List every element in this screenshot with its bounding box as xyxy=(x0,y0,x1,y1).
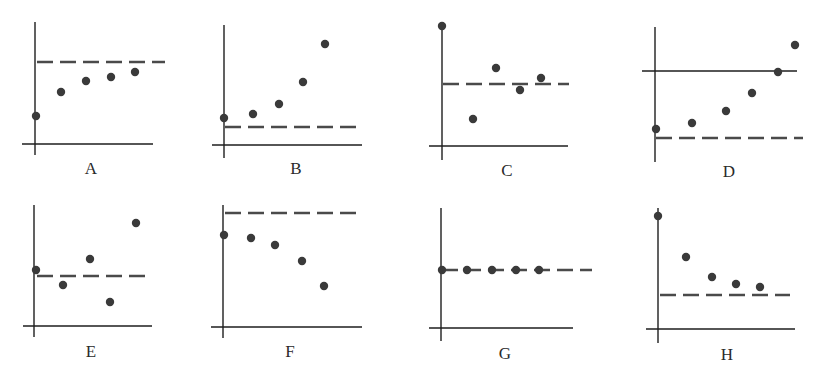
data-point xyxy=(516,86,524,94)
data-point xyxy=(32,112,40,120)
panel-label: G xyxy=(499,344,511,363)
data-point xyxy=(320,282,328,290)
data-point xyxy=(321,40,329,48)
data-point xyxy=(732,280,740,288)
data-point xyxy=(131,68,139,76)
data-point xyxy=(774,68,782,76)
data-point xyxy=(32,266,40,274)
panel-label: D xyxy=(723,162,735,181)
data-point xyxy=(652,125,660,133)
data-point xyxy=(132,219,140,227)
data-point xyxy=(512,266,520,274)
panel-c: C xyxy=(429,22,569,180)
data-point xyxy=(438,22,446,30)
panel-f: F xyxy=(211,205,362,361)
data-point xyxy=(488,266,496,274)
panel-b: B xyxy=(212,25,362,178)
data-point xyxy=(220,114,228,122)
panel-label: F xyxy=(285,342,294,361)
data-point xyxy=(299,78,307,86)
panel-label: C xyxy=(501,161,512,180)
data-point xyxy=(271,241,279,249)
data-point xyxy=(537,74,545,82)
figure-stage: ABCDEFGH xyxy=(0,0,824,385)
data-point xyxy=(722,107,730,115)
panel-label: H xyxy=(721,345,733,364)
panel-a: A xyxy=(22,22,165,178)
data-point xyxy=(688,119,696,127)
data-point xyxy=(86,255,94,263)
data-point xyxy=(654,212,662,220)
data-point xyxy=(106,298,114,306)
panel-d: D xyxy=(642,27,803,181)
data-point xyxy=(249,110,257,118)
data-point xyxy=(82,77,90,85)
data-point xyxy=(463,266,471,274)
data-point xyxy=(469,115,477,123)
data-point xyxy=(438,266,446,274)
panel-g: G xyxy=(429,208,592,363)
panel-label: B xyxy=(290,159,301,178)
data-point xyxy=(59,281,67,289)
data-point xyxy=(220,231,228,239)
panel-label: E xyxy=(86,342,96,361)
data-point xyxy=(107,73,115,81)
data-point xyxy=(791,41,799,49)
data-point xyxy=(535,266,543,274)
data-point xyxy=(275,100,283,108)
data-point xyxy=(708,273,716,281)
panel-grid: ABCDEFGH xyxy=(0,0,824,385)
data-point xyxy=(247,234,255,242)
panel-label: A xyxy=(85,159,98,178)
panel-h: H xyxy=(646,208,795,364)
data-point xyxy=(298,257,306,265)
data-point xyxy=(57,88,65,96)
data-point xyxy=(748,89,756,97)
data-point xyxy=(492,64,500,72)
data-point xyxy=(756,283,764,291)
data-point xyxy=(682,253,690,261)
panel-e: E xyxy=(23,205,152,361)
